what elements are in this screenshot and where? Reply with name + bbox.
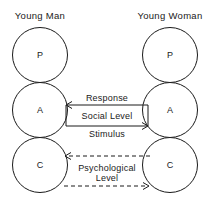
ego-label-right-adult: A [167,105,173,115]
ego-label-left-parent: P [37,50,43,60]
response-label: Response [86,93,128,103]
transactional-analysis-diagram: Young Man Young Woman P A C P A C Respon… [0,0,212,214]
diagram-canvas: Young Man Young Woman P A C P A C Respon… [0,0,212,214]
ego-label-right-child: C [167,160,174,170]
ego-label-left-child: C [37,160,44,170]
psychological-level-label-line1: Psychological [78,163,136,173]
psychological-level-label-line2: Level [96,173,119,183]
ego-label-right-parent: P [167,50,173,60]
social-level-label: Social Level [82,111,133,121]
column-header-right: Young Woman [137,10,202,21]
column-header-left: Young Man [15,10,65,21]
stimulus-label: Stimulus [89,129,125,139]
ego-label-left-adult: A [37,105,43,115]
